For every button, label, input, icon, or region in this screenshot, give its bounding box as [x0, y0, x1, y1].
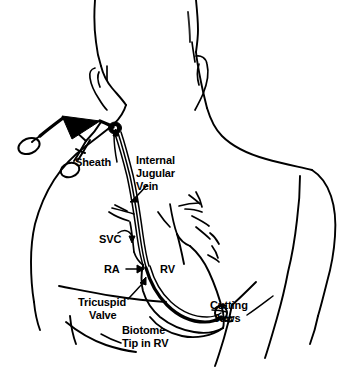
- label-cutting-jaws-line1: Cutting: [210, 299, 248, 311]
- label-ra: RA: [104, 263, 120, 275]
- label-sheath: Sheath: [75, 156, 111, 168]
- anatomy-diagram-svg: Sheath Internal Jugular Vein SVC RA RV T…: [0, 0, 350, 384]
- label-biotome-line2: Tip in RV: [122, 337, 169, 349]
- label-svc: SVC: [99, 233, 121, 245]
- label-internal-jugular-vein-line1: Internal: [136, 154, 175, 166]
- label-cutting-jaws-line2: Jaws: [214, 312, 241, 324]
- label-internal-jugular-vein-line3: Vein: [136, 180, 159, 192]
- label-tricuspid-valve-line1: Tricuspid: [78, 296, 126, 308]
- label-internal-jugular-vein-line2: Jugular: [136, 167, 176, 179]
- label-tricuspid-valve-line2: Valve: [89, 309, 117, 321]
- label-biotome-line1: Biotome: [122, 324, 165, 336]
- label-rv: RV: [160, 263, 176, 275]
- biotome-placement-figure: Sheath Internal Jugular Vein SVC RA RV T…: [0, 0, 350, 384]
